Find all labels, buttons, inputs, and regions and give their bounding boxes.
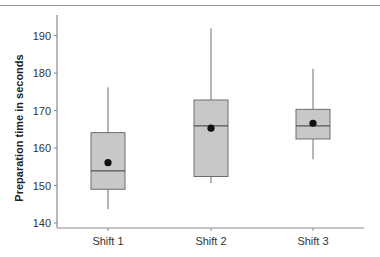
y-axis: 140150160170180190 bbox=[33, 15, 57, 229]
x-tick-label: Shift 3 bbox=[297, 235, 328, 247]
box-plot-series bbox=[91, 28, 330, 209]
y-tick-label: 150 bbox=[33, 180, 51, 192]
y-axis-label: Preparation time in seconds bbox=[13, 54, 25, 201]
box-shift-2 bbox=[194, 28, 228, 183]
y-tick-label: 170 bbox=[33, 105, 51, 117]
x-axis: Shift 1Shift 2Shift 3 bbox=[57, 228, 364, 247]
box-plot-chart: 140150160170180190 Shift 1Shift 2Shift 3… bbox=[0, 0, 380, 257]
x-tick-label: Shift 2 bbox=[195, 235, 226, 247]
y-tick-label: 160 bbox=[33, 142, 51, 154]
box-shift-1 bbox=[91, 87, 125, 209]
y-tick-label: 190 bbox=[33, 30, 51, 42]
iqr-box bbox=[194, 100, 228, 177]
mean-marker bbox=[309, 120, 316, 127]
mean-marker bbox=[104, 159, 111, 166]
y-tick-label: 180 bbox=[33, 67, 51, 79]
mean-marker bbox=[207, 125, 214, 132]
box-shift-3 bbox=[296, 69, 330, 159]
y-tick-label: 140 bbox=[33, 217, 51, 229]
x-tick-label: Shift 1 bbox=[92, 235, 123, 247]
